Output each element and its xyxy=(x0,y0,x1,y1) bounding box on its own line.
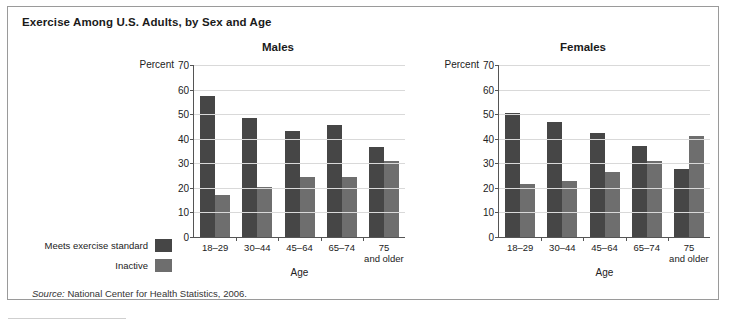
y-axis-tick-mark xyxy=(495,212,499,213)
bar-groups-males xyxy=(194,65,405,237)
x-axis-tick-labels-males: 18–2930–4445–6465–7475and older xyxy=(194,242,405,264)
y-axis-label-males: Percent xyxy=(118,59,174,70)
gridline xyxy=(194,90,405,91)
y-axis-tick-mark xyxy=(495,90,499,91)
y-axis-tick-label: 20 xyxy=(178,182,189,193)
y-axis-tick-mark xyxy=(495,139,499,140)
bar-group xyxy=(626,65,668,237)
y-axis-tick-label: 50 xyxy=(483,109,494,120)
legend-item-inactive: Inactive xyxy=(22,259,172,272)
bar xyxy=(327,125,342,237)
y-axis-tick-mark xyxy=(190,212,194,213)
bar xyxy=(242,118,257,237)
bar-groups-females xyxy=(499,65,710,237)
gridline xyxy=(499,163,710,164)
x-axis-tick-mark xyxy=(236,237,237,241)
source-prefix: Source: xyxy=(32,288,65,299)
legend-item-meets-standard: Meets exercise standard xyxy=(22,239,172,252)
chart-panel-males: Males Percent 18–2930–4445–6465–7475and … xyxy=(118,37,438,272)
gridline xyxy=(194,188,405,189)
plot-area-males: 18–2930–4445–6465–7475and older Age 0102… xyxy=(193,65,405,238)
bar xyxy=(520,184,535,237)
y-axis-tick-label: 0 xyxy=(488,232,494,243)
gridline xyxy=(194,212,405,213)
y-axis-tick-mark xyxy=(190,65,194,66)
y-axis-tick-label: 60 xyxy=(178,84,189,95)
x-axis-tick-mark xyxy=(321,237,322,241)
x-axis-tick-mark xyxy=(626,237,627,241)
y-axis-tick-label: 40 xyxy=(178,133,189,144)
x-axis-tick-label: 65–74 xyxy=(626,242,668,264)
bar xyxy=(562,181,577,238)
x-axis-tick-label: 30–44 xyxy=(541,242,583,264)
y-axis-tick-label: 50 xyxy=(178,109,189,120)
y-axis-tick-label: 0 xyxy=(183,232,189,243)
y-axis-tick-label: 10 xyxy=(483,207,494,218)
gridline xyxy=(194,163,405,164)
figure-frame: Exercise Among U.S. Adults, by Sex and A… xyxy=(7,6,719,300)
bar xyxy=(689,136,704,237)
bar-group xyxy=(668,65,710,237)
chart-title-males: Males xyxy=(118,41,438,53)
y-axis-label-females: Percent xyxy=(423,59,479,70)
chart-panel-females: Females Percent 18–2930–4445–6465–7475an… xyxy=(423,37,734,272)
source-note: Source: National Center for Health Stati… xyxy=(32,288,247,299)
bar-group xyxy=(363,65,405,237)
legend-label-meets-standard: Meets exercise standard xyxy=(45,240,149,251)
bar xyxy=(590,133,605,237)
x-axis-tick-label: 45–64 xyxy=(583,242,625,264)
source-text: National Center for Health Statistics, 2… xyxy=(67,288,247,299)
x-axis-title-males: Age xyxy=(194,267,405,278)
x-axis-tick-label: 30–44 xyxy=(236,242,278,264)
gridline xyxy=(194,139,405,140)
y-axis-tick-mark xyxy=(495,237,499,238)
y-axis-tick-mark xyxy=(190,114,194,115)
x-axis-tick-label: 18–29 xyxy=(499,242,541,264)
y-axis-tick-label: 20 xyxy=(483,182,494,193)
y-axis-tick-mark xyxy=(190,139,194,140)
chart-title-females: Females xyxy=(423,41,734,53)
bar-group xyxy=(321,65,363,237)
bar xyxy=(215,195,230,237)
x-axis-tick-mark xyxy=(363,237,364,241)
y-axis-tick-label: 70 xyxy=(178,60,189,71)
bar xyxy=(384,161,399,237)
x-axis-tick-label: 65–74 xyxy=(321,242,363,264)
y-axis-tick-mark xyxy=(190,163,194,164)
bar xyxy=(369,147,384,237)
bar xyxy=(285,131,300,237)
x-axis-tick-mark xyxy=(541,237,542,241)
x-axis-tick-mark xyxy=(583,237,584,241)
y-axis-tick-mark xyxy=(190,237,194,238)
y-axis-tick-mark xyxy=(495,163,499,164)
bar-group xyxy=(583,65,625,237)
x-axis-tick-labels-females: 18–2930–4445–6465–7475and older xyxy=(499,242,710,264)
y-axis-tick-mark xyxy=(495,114,499,115)
y-axis-tick-label: 40 xyxy=(483,133,494,144)
y-axis-tick-mark xyxy=(190,188,194,189)
bar xyxy=(632,146,647,237)
chart-legend: Meets exercise standard Inactive xyxy=(22,239,172,279)
figure-title: Exercise Among U.S. Adults, by Sex and A… xyxy=(22,16,272,28)
gridline xyxy=(194,114,405,115)
y-axis-tick-mark xyxy=(495,188,499,189)
legend-swatch-meets-standard xyxy=(155,239,172,252)
bar xyxy=(342,177,357,237)
bar xyxy=(674,169,689,237)
bar-group xyxy=(194,65,236,237)
x-axis-tick-label: 75and older xyxy=(363,242,405,264)
bar xyxy=(300,177,315,237)
y-axis-tick-mark xyxy=(190,90,194,91)
y-axis-tick-label: 60 xyxy=(483,84,494,95)
legend-label-inactive: Inactive xyxy=(115,260,148,271)
bar-group xyxy=(499,65,541,237)
bar-group xyxy=(236,65,278,237)
bar xyxy=(200,96,215,237)
gridline xyxy=(499,90,710,91)
gridline xyxy=(499,212,710,213)
x-axis-tick-label: 75and older xyxy=(668,242,710,264)
y-axis-tick-label: 30 xyxy=(178,158,189,169)
x-axis-title-females: Age xyxy=(499,267,710,278)
gridline xyxy=(194,65,405,66)
y-axis-tick-label: 10 xyxy=(178,207,189,218)
